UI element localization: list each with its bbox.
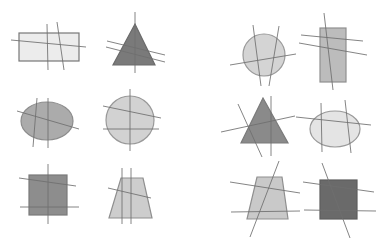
- shapes-figure: [0, 0, 385, 242]
- ellipse-shape: [21, 102, 73, 140]
- ellipse-shape: [310, 111, 360, 147]
- circle-shape: [243, 34, 285, 76]
- rectangle-shape: [19, 33, 79, 61]
- rectangle-shape: [320, 28, 346, 82]
- shapes-with-lines-diagram: [0, 0, 385, 242]
- square-shape: [320, 180, 357, 219]
